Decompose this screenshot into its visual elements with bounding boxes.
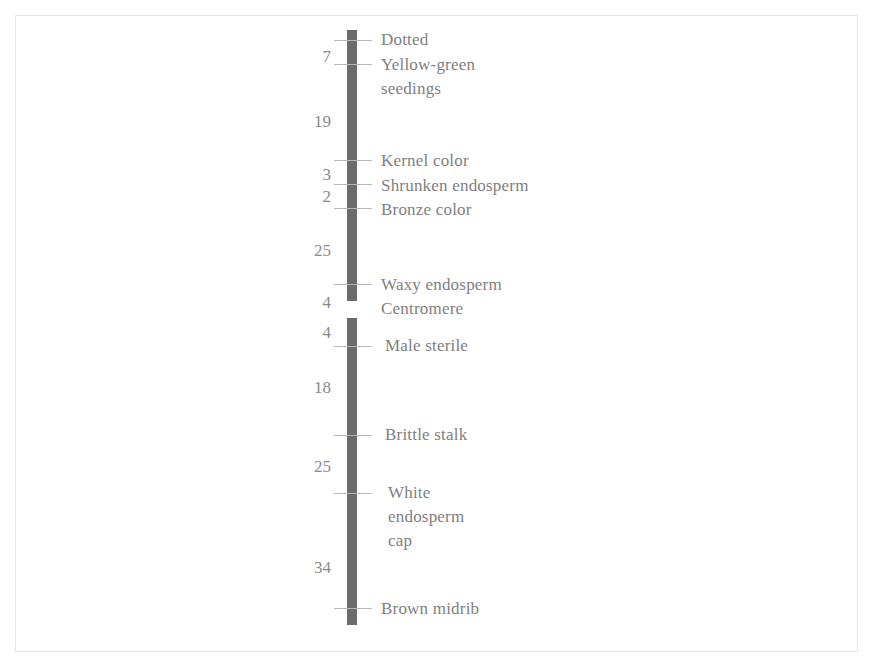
gene-label: Yellow-green seedings: [381, 53, 475, 101]
map-distance-label: 4: [323, 293, 332, 313]
gene-tick: [334, 346, 372, 347]
gene-label: Male sterile: [385, 334, 468, 358]
chromosome-segment-lower-arm: [347, 318, 357, 625]
gene-label: Kernel color: [381, 149, 469, 173]
gene-label: Brown midrib: [381, 597, 479, 621]
gene-label: Brittle stalk: [385, 423, 467, 447]
gene-tick: [334, 160, 372, 161]
gene-tick: [334, 184, 372, 185]
map-distance-label: 18: [314, 378, 331, 398]
gene-tick: [334, 435, 372, 436]
map-distance-label: 25: [314, 241, 331, 261]
map-distance-label: 4: [323, 323, 332, 343]
chromosome-segment-upper-arm: [347, 30, 357, 301]
map-distance-label: 2: [323, 187, 332, 207]
gene-label: Centromere: [381, 297, 463, 321]
gene-tick: [334, 284, 372, 285]
gene-label: White endosperm cap: [388, 481, 464, 553]
gene-tick: [334, 40, 372, 41]
map-distance-label: 25: [314, 457, 331, 477]
gene-label: Shrunken endosperm: [381, 174, 529, 198]
gene-tick: [334, 493, 372, 494]
map-distance-label: 7: [323, 47, 332, 67]
gene-label: Bronze color: [381, 198, 472, 222]
gene-label: Dotted: [381, 28, 428, 52]
map-distance-label: 3: [323, 165, 332, 185]
map-distance-label: 34: [314, 558, 331, 578]
gene-tick: [334, 208, 372, 209]
map-distance-label: 19: [314, 112, 331, 132]
gene-label: Waxy endosperm: [381, 273, 502, 297]
gene-tick: [334, 608, 372, 609]
gene-tick: [334, 64, 372, 65]
